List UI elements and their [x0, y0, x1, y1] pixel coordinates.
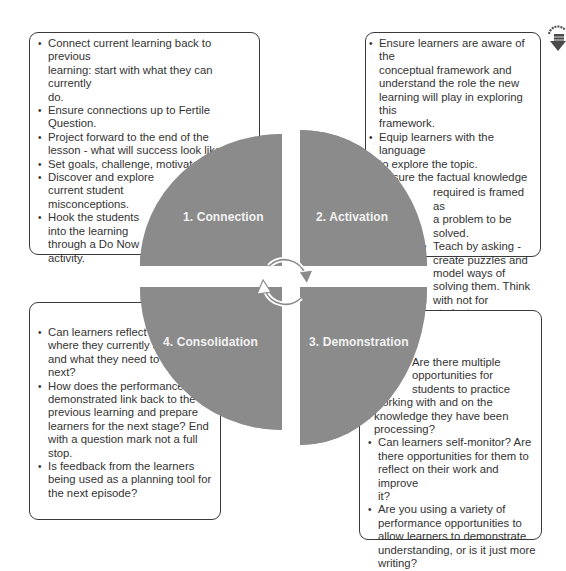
bullet-line: do. — [48, 91, 253, 104]
bullet-line: framework. — [379, 117, 536, 130]
bullet-line: previous learning and prepare — [48, 406, 216, 419]
bullet-line: there opportunities for them to — [378, 450, 537, 463]
bullet-line: Ensure the factual knowledge — [379, 171, 536, 184]
bullet-line: performance opportunities to — [378, 517, 537, 530]
bullet-line: to explore the topic. — [379, 158, 536, 171]
bullet-line: Ensure learners are aware of the — [379, 37, 536, 64]
connection-bullet: Ensure connections up to Fertile Questio… — [36, 104, 253, 131]
demonstration-bullet: Can learners self-monitor? Are there opp… — [366, 436, 537, 503]
bullet-line: writing? — [378, 557, 537, 570]
bullet-line: Can learners self-monitor? Are — [378, 436, 537, 449]
bullet-line: allow learners to demonstrate — [378, 530, 537, 543]
activation-bullet: Ensure learners are aware of the concept… — [367, 37, 536, 131]
bullet-line: with a question mark not a full — [48, 433, 216, 446]
demonstration-bullet: Are you using a variety of performance o… — [366, 503, 537, 570]
quadrant-label-activation: 2. Activation — [316, 210, 388, 224]
bullet-line: model ways of — [433, 267, 536, 280]
bullet-line: solving them. Think — [433, 280, 536, 293]
bullet-line: Ensure connections up to Fertile Questio… — [48, 104, 253, 131]
demonstration-bullet: Are there multiple opportunities for stu… — [400, 356, 537, 436]
bullet-line: create puzzles and — [433, 254, 536, 267]
bullet-line: Are you using a variety of — [378, 503, 537, 516]
bullet-line: learning will play in exploring this — [379, 91, 536, 118]
cycle-arrows-icon — [255, 252, 315, 312]
bullet-line: Equip learners with the language — [379, 131, 536, 158]
bullet-line: processing? — [374, 423, 537, 436]
bullet-line: Connect current learning back to previou… — [48, 37, 253, 64]
activation-bullet: Teach by asking - create puzzles and mod… — [421, 240, 536, 320]
bullet-line: knowledge they have been — [374, 410, 537, 423]
bullet-line: being used as a planning tool for — [48, 473, 216, 486]
activation-bullet: Equip learners with the language to expl… — [367, 131, 536, 171]
bullet-line: understanding, or is it just more — [378, 544, 537, 557]
research-arrow-badge-icon — [548, 26, 566, 52]
bullet-line: the next episode? — [48, 487, 216, 500]
bullet-line: understand the role the new — [379, 77, 536, 90]
bullet-line: learning: start with what they can curre… — [48, 64, 253, 91]
quadrant-label-consolidation: 4. Consolidation — [163, 335, 258, 349]
bullet-line: Teach by asking - — [433, 240, 536, 253]
bullet-line: stop. — [48, 447, 216, 460]
quadrant-label-connection: 1. Connection — [183, 210, 264, 224]
consolidation-bullet: Is feedback from the learners being used… — [36, 460, 216, 500]
bullet-line: Project forward to the end of the — [48, 131, 253, 144]
bullet-line: it? — [378, 490, 537, 503]
bullet-line: opportunities for — [412, 369, 537, 382]
bullet-line: Is feedback from the learners — [48, 460, 216, 473]
bullet-line: reflect on their work and improve — [378, 463, 537, 490]
quadrant-label-demonstration: 3. Demonstration — [309, 335, 409, 349]
connection-bullet: Connect current learning back to previou… — [36, 37, 253, 104]
bullet-line: learners for the next stage? End — [48, 420, 216, 433]
bullet-line: students to practice — [412, 383, 537, 396]
bullet-line: conceptual framework and — [379, 64, 536, 77]
bullet-line: working with and on the — [374, 396, 537, 409]
bullet-line: Are there multiple — [412, 356, 537, 369]
